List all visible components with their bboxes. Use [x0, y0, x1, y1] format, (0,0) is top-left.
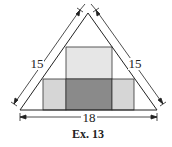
right-side-label: 15: [129, 56, 142, 71]
bottom-left-rect: [43, 79, 66, 110]
figure-caption: Ex. 13: [72, 127, 104, 141]
isosceles-triangle-diagram: 15 15 18 Ex. 13: [0, 0, 172, 147]
top-square: [66, 47, 112, 79]
left-side-label: 15: [31, 56, 44, 71]
base-label: 18: [83, 110, 96, 125]
bottom-center-square: [66, 79, 112, 110]
bottom-right-rect: [112, 79, 134, 110]
